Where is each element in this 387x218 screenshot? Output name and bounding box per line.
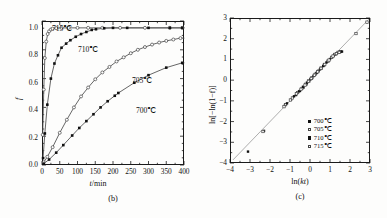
panel-c-y-tick: 2 — [223, 35, 227, 42]
panel-c-x-tick: −4 — [226, 166, 234, 173]
panel-c-legend: 700℃705℃710℃715℃ — [308, 117, 332, 151]
panel-c-y-tick: −4 — [219, 159, 227, 166]
panel-b-curve-label-705C: 705℃ — [132, 76, 152, 85]
panel-b-y-tick: 0.4 — [29, 106, 38, 113]
panel-c-x-tick: −2 — [266, 166, 274, 173]
panel-c-legend-item-2: 710℃ — [308, 134, 332, 142]
panel-c-x-tick: −3 — [246, 166, 254, 173]
figure-root: f t/min (b) 050100150200250300350400 0.0… — [0, 0, 387, 218]
legend-marker-icon — [308, 120, 311, 123]
panel-b-y-tick: 1.0 — [29, 24, 38, 31]
panel-b-x-tick: 150 — [90, 168, 101, 175]
panel-c-canvas — [230, 18, 370, 163]
panel-c-x-tick: 3 — [368, 166, 372, 173]
panel-b-x-tick: 300 — [143, 168, 154, 175]
panel-b-y-axis-label: f — [14, 98, 23, 100]
panel-b-x-tick: 0 — [40, 168, 44, 175]
legend-marker-icon — [308, 145, 311, 148]
panel-c-y-tick: 0 — [223, 76, 227, 83]
panel-b-x-tick: 200 — [107, 168, 118, 175]
panel-c-legend-label: 705℃ — [314, 125, 332, 133]
panel-b-x-axis-label: t/min — [90, 179, 107, 188]
panel-c-legend-label: 710℃ — [314, 134, 332, 142]
panel-c-x-tick: 1 — [328, 166, 332, 173]
panel-c: ln[−ln(1−f)] ln(kt) (c) −4−3−2−10123 321… — [196, 0, 387, 218]
panel-c-y-tick: −1 — [219, 97, 227, 104]
panel-b-canvas — [42, 21, 184, 165]
panel-c-x-axis-label-pre: ln( — [291, 177, 300, 186]
panel-c-caption: (c) — [295, 192, 304, 201]
legend-marker-icon — [308, 128, 311, 131]
panel-c-y-axis-label: ln[−ln(1−f)] — [208, 85, 217, 124]
legend-marker-icon — [308, 136, 311, 139]
panel-b: f t/min (b) 050100150200250300350400 0.0… — [0, 0, 196, 218]
panel-c-y-tick: −2 — [219, 118, 227, 125]
panel-c-legend-label: 700℃ — [314, 117, 332, 125]
panel-c-x-tick: 0 — [308, 166, 312, 173]
panel-c-legend-item-1: 705℃ — [308, 125, 332, 133]
panel-b-y-tick: 0.2 — [29, 134, 38, 141]
panel-b-curve-label-700C: 700℃ — [136, 106, 156, 115]
panel-b-y-tick: 0.6 — [29, 79, 38, 86]
panel-b-curve-label-710C: 710℃ — [78, 45, 98, 54]
panel-b-x-tick: 50 — [56, 168, 63, 175]
panel-b-x-tick: 250 — [125, 168, 136, 175]
panel-c-x-tick: −1 — [286, 166, 294, 173]
panel-c-legend-label: 715℃ — [314, 142, 332, 150]
panel-b-x-tick: 350 — [161, 168, 172, 175]
panel-b-x-tick: 400 — [178, 168, 189, 175]
panel-b-x-axis-label-unit: /min — [92, 179, 107, 188]
panel-c-x-axis-label: ln(kt) — [291, 177, 308, 186]
panel-b-curve-label-715C: 715℃ — [52, 24, 72, 33]
panel-b-y-tick: 0.0 — [29, 161, 38, 168]
panel-b-y-tick: 0.8 — [29, 51, 38, 58]
panel-c-y-tick: 3 — [223, 14, 227, 21]
panel-c-x-axis-label-post: ) — [306, 177, 309, 186]
panel-c-legend-item-0: 700℃ — [308, 117, 332, 125]
panel-c-y-tick: −3 — [219, 138, 227, 145]
panel-c-legend-item-3: 715℃ — [308, 142, 332, 150]
panel-b-caption: (b) — [108, 194, 118, 203]
panel-c-y-tick: 1 — [223, 55, 227, 62]
panel-c-x-tick: 2 — [348, 166, 352, 173]
panel-b-x-tick: 100 — [72, 168, 83, 175]
